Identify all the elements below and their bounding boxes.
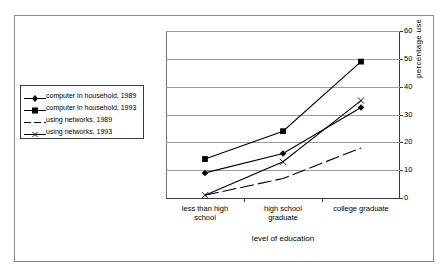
- data-point-diamond: [280, 150, 287, 157]
- dashed-line-icon: [24, 114, 46, 125]
- legend-item: computer in household, 1989: [24, 89, 140, 101]
- legend-item-label: using networks, 1989: [46, 114, 112, 125]
- data-point-square: [202, 156, 208, 162]
- y-tick-label: 30: [404, 111, 420, 119]
- x-tick-mark: [244, 198, 245, 202]
- x-tick-label: less than highschool: [166, 204, 244, 222]
- data-point-x: [358, 98, 364, 104]
- legend-item-label: using networks, 1993: [46, 126, 112, 137]
- series-layer: [166, 31, 400, 198]
- y-tick-label: 50: [404, 55, 420, 63]
- y-tick-label: 0: [404, 194, 420, 202]
- data-point-square: [280, 128, 286, 134]
- legend-item: computer in household, 1993: [24, 101, 140, 113]
- data-point-square: [358, 59, 364, 65]
- y-axis-title: percentage use: [414, 8, 423, 78]
- legend-item-label: computer in household, 1993: [46, 102, 136, 113]
- chart-legend: computer in household, 1989 computer in …: [20, 85, 144, 139]
- legend-item: using networks, 1989: [24, 113, 140, 125]
- data-point-diamond: [202, 170, 209, 177]
- plot-area: [166, 31, 400, 198]
- y-tick-label: 40: [404, 83, 420, 91]
- data-point-diamond: [358, 104, 365, 111]
- y-tick-label: 10: [404, 166, 420, 174]
- series-line: [205, 108, 361, 173]
- y-tick-mark: [400, 198, 403, 199]
- x-tick-mark: [322, 198, 323, 202]
- x-marker-line-icon: [24, 126, 46, 137]
- data-point-x: [280, 159, 286, 165]
- y-tick-mark: [400, 59, 403, 60]
- y-tick-mark: [400, 115, 403, 116]
- legend-item-label: computer in household, 1989: [46, 90, 136, 101]
- y-tick-mark: [400, 170, 403, 171]
- y-tick-mark: [400, 31, 403, 32]
- y-tick-mark: [400, 87, 403, 88]
- x-axis-line: [166, 198, 400, 199]
- legend-item: using networks, 1993: [24, 125, 140, 137]
- y-tick-label: 60: [404, 27, 420, 35]
- series-line: [205, 62, 361, 159]
- chart-figure: computer in household, 1989 computer in …: [0, 0, 447, 273]
- diamond-marker-icon: [24, 90, 46, 101]
- x-axis-title: level of education: [166, 234, 400, 243]
- x-tick-label: college graduate: [322, 204, 400, 213]
- series-line: [205, 101, 361, 196]
- x-tick-label: high schoolgraduate: [244, 204, 322, 222]
- y-tick-label: 20: [404, 138, 420, 146]
- square-marker-icon: [24, 102, 46, 113]
- y-tick-mark: [400, 142, 403, 143]
